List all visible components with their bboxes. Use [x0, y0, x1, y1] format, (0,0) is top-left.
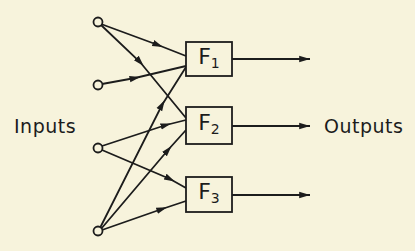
function-subscript: 2: [211, 121, 220, 137]
function-letter: F: [198, 44, 211, 69]
connection-input4-F3: [102, 201, 186, 230]
connection-input1-F1: [101, 24, 186, 56]
function-label-f2: F2: [186, 110, 232, 137]
function-subscript: 1: [211, 55, 220, 71]
input-node-3: [94, 144, 103, 153]
outputs-label: Outputs: [324, 115, 403, 137]
function-subscript: 3: [211, 190, 220, 206]
input-node-2: [94, 81, 103, 90]
input-node-1: [94, 18, 103, 27]
inputs-label: Inputs: [14, 115, 76, 137]
function-label-f3: F3: [186, 179, 232, 206]
connection-input4-F2: [101, 130, 186, 229]
function-label-f1: F1: [186, 44, 232, 71]
connection-input3-F3: [102, 150, 186, 188]
connection-input4-F1: [100, 67, 186, 228]
connection-input2-F1: [102, 66, 186, 84]
function-letter: F: [198, 179, 211, 204]
input-node-4: [94, 227, 103, 236]
function-letter: F: [198, 110, 211, 135]
